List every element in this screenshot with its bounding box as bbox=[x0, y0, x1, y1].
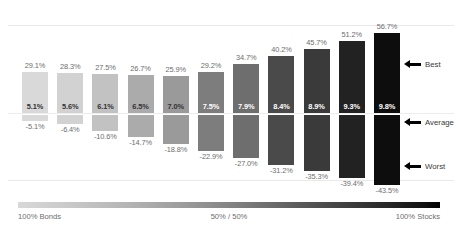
arrow-left-icon bbox=[404, 60, 421, 69]
bar-label-average: 7.5% bbox=[203, 102, 219, 111]
bar-label-average: 7.0% bbox=[168, 102, 184, 111]
bar-group[interactable]: 56.7%9.8%-43.5% bbox=[374, 0, 400, 200]
bar-label-average: 5.1% bbox=[27, 102, 43, 111]
bar-group[interactable]: 29.1%5.1%-5.1% bbox=[22, 0, 48, 200]
bar-segment-worst bbox=[198, 115, 224, 151]
scale-label-bonds: 100% Bonds bbox=[18, 212, 61, 221]
scale-label-mixed: 50% / 50% bbox=[211, 212, 248, 221]
bar-label-worst: -39.4% bbox=[340, 179, 363, 188]
bar-label-best: 40.2% bbox=[271, 45, 291, 54]
bar-segment-worst bbox=[128, 115, 154, 137]
bar-segment-worst bbox=[163, 115, 189, 144]
bar-segment-worst bbox=[374, 115, 400, 185]
bar-group[interactable]: 45.7%8.9%-35.3% bbox=[304, 0, 330, 200]
bar-label-best: 27.5% bbox=[95, 63, 115, 72]
bar-label-average: 6.1% bbox=[97, 102, 113, 111]
bar-group[interactable]: 26.7%6.5%-14.7% bbox=[128, 0, 154, 200]
bar-group[interactable]: 34.7%7.9%-27.0% bbox=[233, 0, 259, 200]
bar-group[interactable]: 29.2%7.5%-22.9% bbox=[198, 0, 224, 200]
bar-group[interactable]: 27.5%6.1%-10.6% bbox=[92, 0, 118, 200]
bar-label-worst: -27.0% bbox=[235, 159, 258, 168]
bar-series-group: 29.1%5.1%-5.1%28.3%5.6%-6.4%27.5%6.1%-10… bbox=[0, 0, 462, 233]
bar-segment-worst bbox=[57, 115, 83, 124]
bar-group[interactable]: 40.2%8.4%-31.2% bbox=[268, 0, 294, 200]
bar-label-best: 25.9% bbox=[166, 65, 186, 74]
bar-label-worst: -31.2% bbox=[270, 166, 293, 175]
bar-label-average: 5.6% bbox=[62, 102, 78, 111]
bar-segment-worst bbox=[339, 115, 365, 178]
bar-segment-best bbox=[374, 33, 400, 113]
bar-label-average: 6.5% bbox=[132, 102, 148, 111]
bar-label-best: 34.7% bbox=[236, 53, 256, 62]
bar-label-average: 9.8% bbox=[379, 102, 395, 111]
bar-label-average: 8.4% bbox=[273, 102, 289, 111]
bar-segment-worst bbox=[233, 115, 259, 158]
annotation-worst-label: Worst bbox=[425, 162, 445, 171]
arrow-left-icon bbox=[404, 118, 421, 127]
annotation-best-label: Best bbox=[425, 60, 441, 69]
bar-label-best: 51.2% bbox=[342, 30, 362, 39]
bar-label-worst: -14.7% bbox=[129, 138, 152, 147]
arrow-left-icon bbox=[404, 162, 421, 171]
annotation-average-label: Average bbox=[425, 118, 454, 127]
bar-label-best: 56.7% bbox=[377, 22, 397, 31]
allocation-scale-labels: 100% Bonds 50% / 50% 100% Stocks bbox=[18, 212, 440, 226]
bar-group[interactable]: 28.3%5.6%-6.4% bbox=[57, 0, 83, 200]
bar-label-worst: -43.5% bbox=[376, 186, 399, 195]
bar-label-best: 26.7% bbox=[130, 64, 150, 73]
bar-label-best: 29.1% bbox=[25, 61, 45, 70]
annotation-best: Best bbox=[404, 60, 441, 69]
bar-segment-worst bbox=[268, 115, 294, 165]
annotation-worst: Worst bbox=[404, 162, 445, 171]
allocation-gradient-bar bbox=[18, 202, 440, 208]
bar-label-worst: -5.1% bbox=[26, 122, 45, 131]
bar-label-worst: -22.9% bbox=[200, 152, 223, 161]
bar-segment-worst bbox=[304, 115, 330, 171]
bar-segment-worst bbox=[22, 115, 48, 121]
bar-label-worst: -10.6% bbox=[94, 132, 117, 141]
chart-root: 29.1%5.1%-5.1%28.3%5.6%-6.4%27.5%6.1%-10… bbox=[0, 0, 462, 233]
bar-label-best: 28.3% bbox=[60, 62, 80, 71]
bar-label-worst: -6.4% bbox=[61, 125, 80, 134]
bar-group[interactable]: 51.2%9.3%-39.4% bbox=[339, 0, 365, 200]
bar-label-average: 9.3% bbox=[344, 102, 360, 111]
bar-label-best: 45.7% bbox=[306, 38, 326, 47]
bar-label-worst: -18.8% bbox=[164, 145, 187, 154]
bar-label-average: 8.9% bbox=[308, 102, 324, 111]
bar-label-worst: -35.3% bbox=[305, 172, 328, 181]
annotation-average: Average bbox=[404, 118, 454, 127]
bar-label-average: 7.9% bbox=[238, 102, 254, 111]
allocation-scale: 100% Bonds 50% / 50% 100% Stocks bbox=[18, 202, 440, 226]
bar-group[interactable]: 25.9%7.0%-18.8% bbox=[163, 0, 189, 200]
bar-label-best: 29.2% bbox=[201, 61, 221, 70]
bar-segment-worst bbox=[92, 115, 118, 131]
scale-label-stocks: 100% Stocks bbox=[396, 212, 440, 221]
